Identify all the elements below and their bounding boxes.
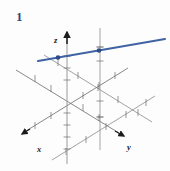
x-axis-group: x bbox=[22, 68, 128, 154]
x-axis-arrow bbox=[22, 129, 30, 134]
tick-marks-y-parallel bbox=[58, 59, 138, 116]
y-axis-group: y bbox=[16, 70, 131, 152]
figure-container: 1 bbox=[0, 0, 170, 171]
grid-lines-group bbox=[44, 28, 155, 160]
z-axis-label: z bbox=[53, 35, 58, 45]
blue-point-2 bbox=[97, 48, 102, 53]
y-axis-arrow bbox=[115, 131, 124, 136]
x-axis-line bbox=[26, 68, 128, 131]
y-axis-label: y bbox=[126, 142, 131, 152]
x-axis-label: x bbox=[36, 144, 42, 154]
coordinate-axes-diagram: x y z bbox=[0, 0, 170, 171]
blue-point-1 bbox=[56, 55, 61, 60]
